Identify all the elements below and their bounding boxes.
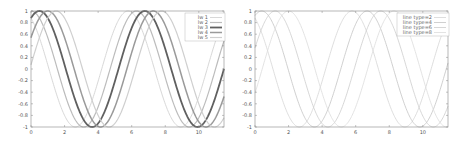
y-tick-label: 0.2 <box>20 54 28 60</box>
x-tick-label: 8 <box>388 129 391 135</box>
y-tick-label: -0.6 <box>18 101 28 107</box>
x-tick-label: 2 <box>287 129 290 135</box>
x-tick-label: 10 <box>420 129 426 135</box>
y-tick-label: 0.6 <box>20 31 28 37</box>
x-tick-label: 0 <box>29 129 32 135</box>
y-tick-label: 1 <box>249 8 252 14</box>
chart-canvas: 10.80.60.40.20-0.2-0.4-0.6-0.8-10246810l… <box>0 0 464 144</box>
y-tick-label: 1 <box>25 8 28 14</box>
x-tick-label: 8 <box>164 129 167 135</box>
x-tick-label: 2 <box>63 129 66 135</box>
x-tick-label: 0 <box>253 129 256 135</box>
y-tick-label: 0.8 <box>20 19 28 25</box>
x-tick-label: 10 <box>196 129 202 135</box>
y-tick-label: -0.8 <box>18 112 28 118</box>
y-tick-label: 0.8 <box>244 19 252 25</box>
y-tick-label: -0.6 <box>242 101 252 107</box>
legend-label: lw 5 <box>198 34 208 40</box>
x-tick-label: 4 <box>97 129 100 135</box>
x-tick-label: 6 <box>130 129 133 135</box>
chart-1: 10.80.60.40.20-0.2-0.4-0.6-0.8-10246810l… <box>18 8 225 135</box>
y-tick-label: -0.4 <box>242 89 252 95</box>
legend-label: line type=8 <box>403 29 432 36</box>
x-tick-label: 4 <box>321 129 324 135</box>
legend: line type=2line type=4line type=6line ty… <box>397 13 449 36</box>
y-tick-label: -0.2 <box>18 77 28 83</box>
y-tick-label: 0.6 <box>244 31 252 37</box>
legend: lw 1lw 2lw 3lw 4lw 5 <box>185 13 225 41</box>
y-tick-label: -0.4 <box>18 89 28 95</box>
y-tick-label: 0.4 <box>20 43 28 49</box>
chart-2: 10.80.60.40.20-0.2-0.4-0.6-0.8-10246810l… <box>242 8 449 135</box>
y-tick-label: 0 <box>249 66 252 72</box>
x-tick-label: 6 <box>354 129 357 135</box>
y-tick-label: -1 <box>247 124 252 130</box>
y-tick-label: -0.8 <box>242 112 252 118</box>
y-tick-label: 0.2 <box>244 54 252 60</box>
y-tick-label: -1 <box>23 124 28 130</box>
y-tick-label: -0.2 <box>242 77 252 83</box>
y-tick-label: 0 <box>25 66 28 72</box>
y-tick-label: 0.4 <box>244 43 252 49</box>
